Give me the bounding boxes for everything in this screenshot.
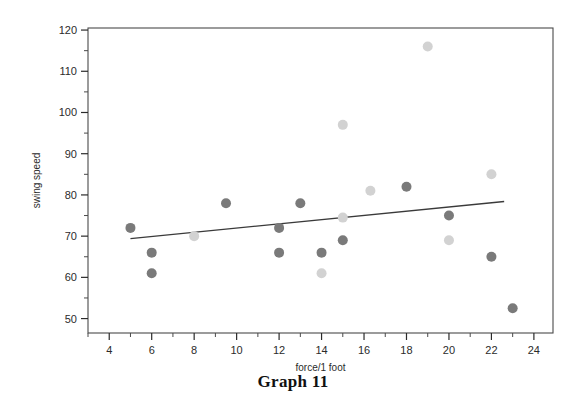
x-tick-label: 22 bbox=[485, 344, 497, 356]
x-tick-label: 20 bbox=[443, 344, 455, 356]
data-point bbox=[338, 213, 348, 223]
data-point bbox=[486, 169, 496, 179]
y-tick-label: 120 bbox=[59, 24, 77, 36]
data-point bbox=[317, 248, 327, 258]
x-tick-label: 14 bbox=[315, 344, 327, 356]
data-point bbox=[423, 42, 433, 52]
data-point bbox=[125, 223, 135, 233]
data-point bbox=[444, 211, 454, 221]
x-tick-label: 12 bbox=[273, 344, 285, 356]
y-tick-label: 80 bbox=[65, 189, 77, 201]
x-tick-label: 18 bbox=[400, 344, 412, 356]
y-tick-label: 90 bbox=[65, 148, 77, 160]
y-tick-label: 50 bbox=[65, 313, 77, 325]
x-tick-label: 10 bbox=[231, 344, 243, 356]
data-point bbox=[338, 120, 348, 130]
data-point bbox=[338, 235, 348, 245]
data-point bbox=[365, 186, 375, 196]
y-tick-label: 70 bbox=[65, 230, 77, 242]
data-point bbox=[295, 198, 305, 208]
x-tick-label: 4 bbox=[106, 344, 112, 356]
data-point bbox=[401, 182, 411, 192]
y-axis-title: swing speed bbox=[31, 153, 42, 209]
data-point bbox=[221, 198, 231, 208]
data-point bbox=[508, 303, 518, 313]
x-tick-label: 24 bbox=[528, 344, 540, 356]
x-tick-label: 8 bbox=[191, 344, 197, 356]
data-point bbox=[189, 231, 199, 241]
y-tick-label: 100 bbox=[59, 106, 77, 118]
data-point bbox=[444, 235, 454, 245]
x-tick-label: 16 bbox=[358, 344, 370, 356]
data-point bbox=[274, 223, 284, 233]
data-point bbox=[274, 248, 284, 258]
data-point bbox=[317, 268, 327, 278]
data-point bbox=[486, 252, 496, 262]
plot-frame bbox=[88, 28, 553, 333]
y-tick-label: 110 bbox=[59, 65, 77, 77]
figure-caption: Graph 11 bbox=[0, 372, 586, 392]
series-dark-markers bbox=[125, 182, 517, 314]
scatter-plot: 46810121416182022245060708090100110120fo… bbox=[0, 0, 586, 414]
x-tick-label: 6 bbox=[149, 344, 155, 356]
y-tick-label: 60 bbox=[65, 271, 77, 283]
figure-graph-11: 46810121416182022245060708090100110120fo… bbox=[0, 0, 586, 414]
data-point bbox=[147, 248, 157, 258]
data-point bbox=[147, 268, 157, 278]
